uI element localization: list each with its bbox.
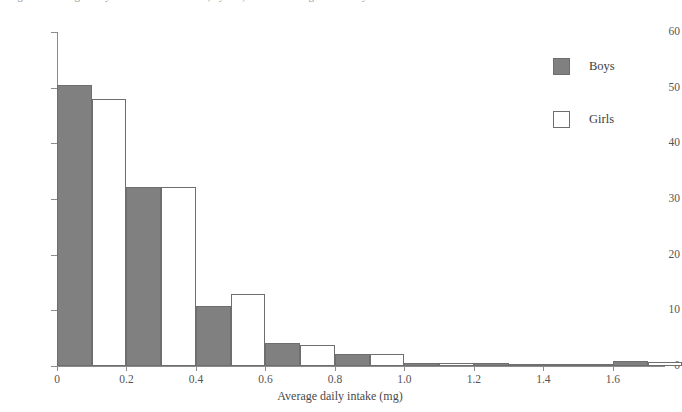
bar-girls-bin-3 (300, 345, 335, 366)
x-tick-label: 1.0 (384, 373, 424, 385)
x-tick-label: 0.4 (176, 373, 216, 385)
figure-caption-text: Figure 1 Average daily intake of the nut… (8, 0, 385, 2)
x-tick-mark (335, 366, 336, 371)
bar-boys-bin-5 (404, 363, 439, 366)
bar-girls-bin-1 (161, 187, 196, 366)
x-tick-label: 1.6 (593, 373, 633, 385)
figure-caption-cutoff: Figure 1 Average daily intake of the nut… (0, 0, 680, 10)
x-tick-mark (196, 366, 197, 371)
x-tick-mark (126, 366, 127, 371)
bar-boys-bin-1 (126, 187, 161, 366)
legend-label-boys: Boys (589, 59, 615, 74)
x-tick-mark (474, 366, 475, 371)
legend-swatch-open-white-square (553, 111, 570, 128)
bar-boys-bin-4 (335, 354, 370, 366)
legend-swatch-filled-gray-square (553, 58, 570, 75)
x-axis-label: Average daily intake (mg) (0, 389, 680, 404)
bar-boys-bin-6 (474, 363, 509, 366)
bar-boys-bin-8 (613, 361, 648, 366)
bar-boys-bin-3 (265, 343, 300, 366)
x-tick-label: 0.2 (106, 373, 146, 385)
plot-area (57, 32, 665, 366)
bar-girls-bin-7 (578, 364, 613, 366)
bar-boys-bin-7 (543, 364, 578, 366)
bar-girls-bin-0 (92, 99, 127, 366)
x-tick-label: 0.8 (315, 373, 355, 385)
x-tick-label: 1.2 (454, 373, 494, 385)
x-tick-mark (613, 366, 614, 371)
bar-girls-bin-8 (648, 362, 682, 366)
bar-girls-bin-2 (231, 294, 266, 366)
x-tick-mark (404, 366, 405, 371)
bar-girls-bin-4 (370, 354, 405, 366)
x-tick-label: 0.6 (245, 373, 285, 385)
x-tick-mark (265, 366, 266, 371)
legend-label-girls: Girls (589, 112, 614, 127)
x-tick-mark (57, 366, 58, 371)
bar-girls-bin-6 (509, 364, 544, 366)
x-tick-label: 1.4 (523, 373, 563, 385)
bar-boys-bin-0 (57, 85, 92, 366)
x-axis-line (57, 366, 665, 367)
bar-boys-bin-2 (196, 306, 231, 366)
x-tick-label: 0 (37, 373, 77, 385)
legend-item-girls[interactable]: Girls (553, 111, 614, 128)
bar-girls-bin-5 (439, 363, 474, 366)
x-tick-mark (543, 366, 544, 371)
legend-item-boys[interactable]: Boys (553, 58, 615, 75)
